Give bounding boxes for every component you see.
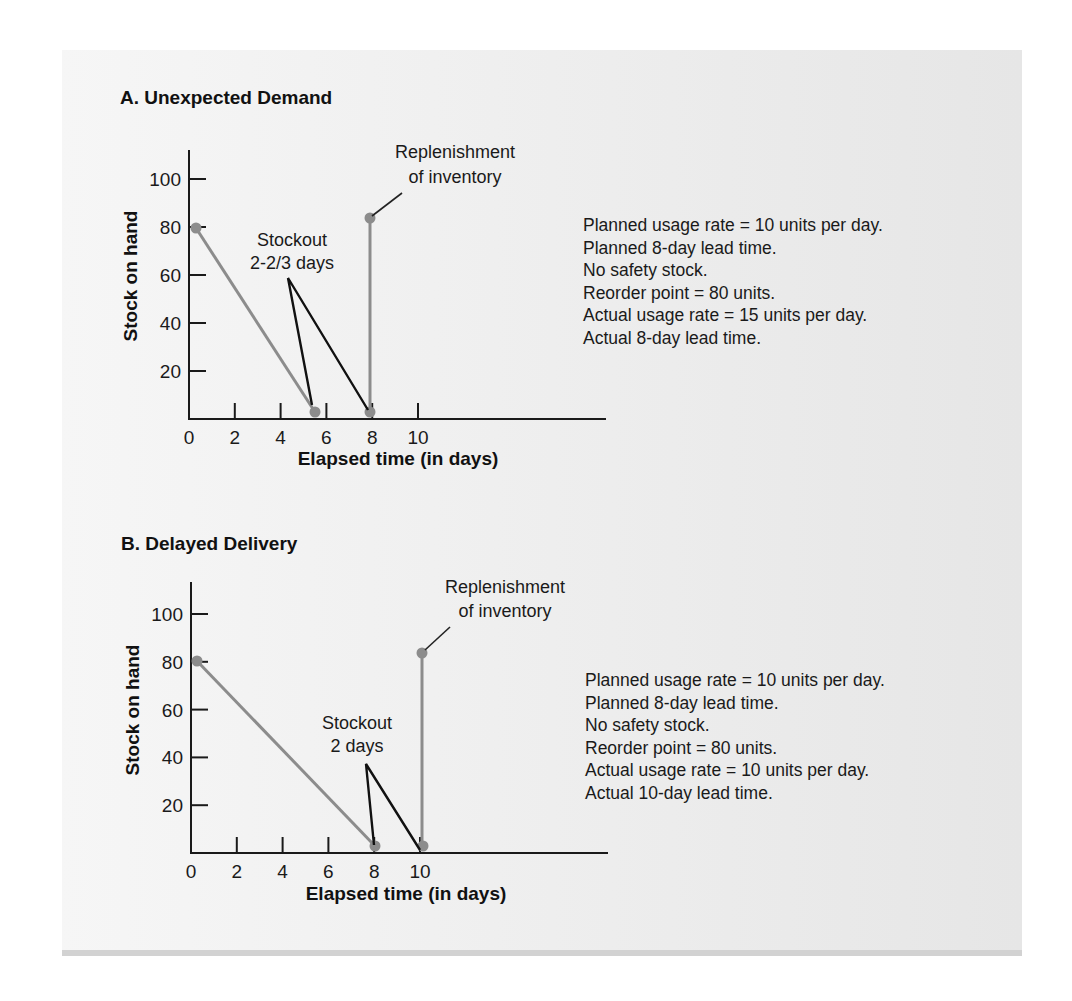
figure-svg: A. Unexpected Demand Stock on hand 20406… xyxy=(0,0,1072,1001)
x-tick-label: 4 xyxy=(275,427,286,448)
x-tick-label: 8 xyxy=(367,427,378,448)
replenish-label-line2: of inventory xyxy=(458,601,551,621)
note-line: Actual usage rate = 10 units per day. xyxy=(585,760,869,780)
note-line: Reorder point = 80 units. xyxy=(583,283,775,303)
chart-a-title: A. Unexpected Demand xyxy=(120,87,332,108)
chart-a: A. Unexpected Demand Stock on hand 20406… xyxy=(120,87,883,469)
x-tick-label: 0 xyxy=(184,427,195,448)
chart-a-replenish-annotation: Replenishment of inventory xyxy=(372,142,515,216)
x-tick-label: 4 xyxy=(277,861,288,882)
note-line: Planned 8-day lead time. xyxy=(585,693,779,713)
chart-a-axes xyxy=(188,150,606,419)
replenish-label-line2: of inventory xyxy=(408,167,501,187)
note-line: No safety stock. xyxy=(583,260,708,280)
chart-b-point xyxy=(370,841,381,852)
x-tick-label: 6 xyxy=(321,427,332,448)
chart-a-stockout-annotation: Stockout 2-2/3 days xyxy=(250,230,368,410)
y-tick-label: 100 xyxy=(151,604,183,625)
stockout-label-line2: 2-2/3 days xyxy=(250,253,334,273)
chart-a-point xyxy=(191,223,202,234)
chart-b-y-axis-label: Stock on hand xyxy=(122,645,143,776)
chart-b-series xyxy=(192,648,429,852)
stockout-label-line1: Stockout xyxy=(257,230,327,250)
chart-b: B. Delayed Delivery Stock on hand 204060… xyxy=(121,533,885,904)
chart-a-y-ticks: 20406080100 xyxy=(149,169,206,382)
replenish-leader-line xyxy=(425,627,450,650)
chart-b-replenish-annotation: Replenishment of inventory xyxy=(425,577,565,650)
replenish-label-line1: Replenishment xyxy=(445,577,565,597)
note-line: Actual 10-day lead time. xyxy=(585,783,773,803)
x-tick-label: 2 xyxy=(230,427,241,448)
replenish-label-line1: Replenishment xyxy=(395,142,515,162)
chart-a-x-ticks: 0246810 xyxy=(184,403,429,448)
y-tick-label: 40 xyxy=(160,313,181,334)
y-tick-label: 20 xyxy=(162,795,183,816)
note-line: Reorder point = 80 units. xyxy=(585,738,777,758)
y-tick-label: 100 xyxy=(149,169,181,190)
note-line: Actual usage rate = 15 units per day. xyxy=(583,305,867,325)
x-tick-label: 8 xyxy=(369,861,380,882)
x-tick-label: 6 xyxy=(323,861,334,882)
note-line: Planned usage rate = 10 units per day. xyxy=(585,670,885,690)
y-tick-label: 20 xyxy=(160,361,181,382)
chart-a-x-axis-label: Elapsed time (in days) xyxy=(298,448,499,469)
stockout-leader-lines xyxy=(366,764,420,850)
note-line: Actual 8-day lead time. xyxy=(583,328,761,348)
x-tick-label: 10 xyxy=(407,427,428,448)
note-line: Planned 8-day lead time. xyxy=(583,238,777,258)
x-tick-label: 0 xyxy=(186,861,197,882)
y-tick-label: 40 xyxy=(162,747,183,768)
chart-b-y-ticks: 20406080100 xyxy=(151,604,208,816)
x-tick-label: 2 xyxy=(232,861,243,882)
y-tick-label: 60 xyxy=(160,265,181,286)
chart-b-stockout-annotation: Stockout 2 days xyxy=(322,713,420,850)
chart-b-x-axis-label: Elapsed time (in days) xyxy=(306,883,507,904)
y-tick-label: 80 xyxy=(160,217,181,238)
x-tick-label: 10 xyxy=(409,861,430,882)
chart-b-point xyxy=(192,656,203,667)
chart-b-notes: Planned usage rate = 10 units per day.Pl… xyxy=(585,670,885,803)
chart-b-title: B. Delayed Delivery xyxy=(121,533,298,554)
stockout-label-line2: 2 days xyxy=(330,736,383,756)
chart-b-x-ticks: 0246810 xyxy=(186,837,431,882)
y-tick-label: 60 xyxy=(162,700,183,721)
chart-a-point xyxy=(310,407,321,418)
chart-a-y-axis-label: Stock on hand xyxy=(120,211,141,342)
note-line: Planned usage rate = 10 units per day. xyxy=(583,215,883,235)
chart-a-notes: Planned usage rate = 10 units per day.Pl… xyxy=(583,215,883,348)
replenish-leader-line xyxy=(372,193,402,216)
note-line: No safety stock. xyxy=(585,715,710,735)
stockout-label-line1: Stockout xyxy=(322,713,392,733)
y-tick-label: 80 xyxy=(162,652,183,673)
